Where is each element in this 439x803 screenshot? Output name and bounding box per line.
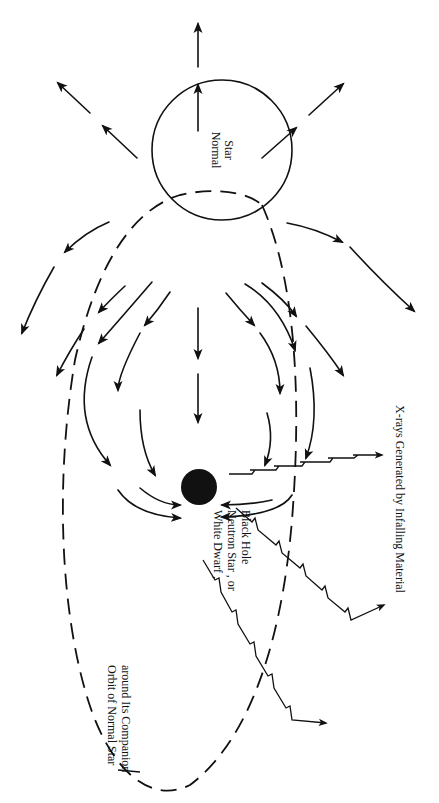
x-ray-binary-diagram: Normal Star White Dwarf , Neutron Star ,… — [0, 0, 439, 803]
xrays-label: X-rays Generated by Infalling Material — [393, 405, 407, 594]
normal-star-label-line1: Normal — [209, 132, 223, 169]
right-wind-arrows — [222, 223, 414, 517]
compact-label-line2: Neutron Star , or — [225, 510, 239, 591]
orbit-label: Orbit of Normal Star around Its Companio… — [105, 665, 133, 772]
compact-label-line3: Black Hole — [239, 510, 253, 564]
compact-object-label: White Dwarf , Neutron Star , or Black Ho… — [211, 510, 253, 591]
orbit-ellipse — [63, 191, 296, 790]
normal-star-label: Normal Star — [209, 132, 236, 169]
left-wind-arrows — [22, 222, 180, 518]
orbit-label-line2: around Its Companion — [119, 665, 133, 772]
normal-star-label-line2: Star — [222, 140, 236, 159]
outward-wind-arrows — [58, 24, 343, 158]
compact-object — [181, 469, 217, 505]
compact-label-line1: White Dwarf , — [211, 510, 225, 579]
xrays-label-text: X-rays Generated by Infalling Material — [393, 405, 407, 594]
orbit-label-line1: Orbit of Normal Star — [105, 665, 119, 765]
